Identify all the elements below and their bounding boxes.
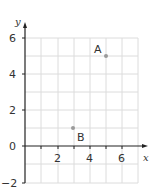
point-b-marker (71, 126, 75, 130)
point-a-marker (104, 54, 108, 58)
axes (22, 25, 145, 183)
coordinate-plane: y x 6 4 2 0 −2 2 4 6 A B (0, 0, 158, 196)
point-a-label: A (94, 43, 102, 56)
y-axis-label: y (14, 16, 21, 27)
x-tick-4: 4 (86, 152, 93, 165)
y-tick-6: 6 (9, 32, 16, 45)
x-tick-6: 6 (118, 152, 125, 165)
y-tick-neg2: −2 (1, 177, 17, 190)
x-axis-arrow-icon (142, 144, 148, 148)
x-tick-2: 2 (54, 152, 61, 165)
y-tick-0: 0 (9, 140, 16, 153)
y-tick-4: 4 (9, 68, 16, 81)
x-axis-label: x (143, 152, 149, 163)
y-axis-arrow-icon (23, 22, 27, 28)
y-tick-2: 2 (9, 104, 16, 117)
point-b-label: B (77, 131, 85, 144)
